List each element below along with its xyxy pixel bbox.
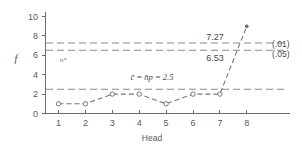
center-line-formula: c̄ = n̄p = 2.5 <box>131 72 174 82</box>
reference-alpha-ucl-01: (.01) <box>272 39 290 49</box>
y-tick-label-0: 0 <box>33 109 38 119</box>
chart-canvas: 0 2 4 6 8 10 f 1 2 3 4 5 6 7 <box>0 0 302 151</box>
data-point-4 <box>137 92 141 96</box>
data-point-8-out-of-control <box>245 24 249 28</box>
x-tick-label-2: 2 <box>83 118 88 128</box>
x-tick-label-3: 3 <box>110 118 115 128</box>
x-axis-tick-labels: 1 2 3 4 5 6 7 8 <box>56 118 249 128</box>
y-tick-label-6: 6 <box>33 50 38 60</box>
y-tick-label-2: 2 <box>33 89 38 99</box>
x-tick-label-5: 5 <box>164 118 169 128</box>
data-point-7 <box>218 92 222 96</box>
y-axis-tick-labels: 0 2 4 6 8 10 <box>28 12 38 119</box>
y-tick-label-10: 10 <box>28 12 38 22</box>
y-axis-ticks <box>42 17 46 114</box>
data-point-5 <box>164 102 168 106</box>
x-tick-label-7: 7 <box>217 118 222 128</box>
x-axis-ticks <box>59 110 247 114</box>
x-axis-title: Head <box>142 133 163 143</box>
x-tick-label-6: 6 <box>190 118 195 128</box>
data-point-1 <box>56 102 60 106</box>
data-point-6 <box>191 92 195 96</box>
data-point-2 <box>83 102 87 106</box>
reference-value-ucl-01: 7.27 <box>206 32 224 42</box>
x-tick-label-8: 8 <box>244 118 249 128</box>
reference-value-ucl-05: 6.53 <box>206 53 224 63</box>
data-point-3 <box>110 92 114 96</box>
x-tick-label-4: 4 <box>137 118 142 128</box>
y-axis-title: f <box>15 53 19 64</box>
y-tick-label-8: 8 <box>33 31 38 41</box>
control-chart: 0 2 4 6 8 10 f 1 2 3 4 5 6 7 <box>0 0 302 151</box>
n-star-annotation: n* <box>60 56 67 63</box>
x-tick-label-1: 1 <box>56 118 61 128</box>
y-tick-label-4: 4 <box>33 70 38 80</box>
reference-alpha-ucl-05: (.05) <box>272 49 290 59</box>
